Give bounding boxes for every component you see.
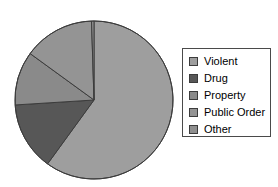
legend-label-violent: Violent	[204, 56, 237, 67]
pie-chart-screenshot: Violent Drug Property Public Order Other	[0, 0, 278, 187]
legend-swatch-drug	[189, 74, 198, 83]
legend-item-violent: Violent	[189, 53, 270, 69]
legend-label-other: Other	[204, 124, 232, 135]
legend-swatch-public-order	[189, 108, 198, 117]
pie-slice-group	[15, 21, 173, 179]
legend-label-public-order: Public Order	[204, 107, 265, 118]
legend-item-public-order: Public Order	[189, 104, 270, 120]
legend-item-other: Other	[189, 121, 270, 137]
legend-label-property: Property	[204, 90, 246, 101]
legend-item-drug: Drug	[189, 70, 270, 86]
chart-legend: Violent Drug Property Public Order Other	[182, 48, 271, 137]
pie-chart-svg	[0, 0, 190, 187]
legend-swatch-property	[189, 91, 198, 100]
legend-swatch-violent	[189, 57, 198, 66]
legend-item-property: Property	[189, 87, 270, 103]
legend-swatch-other	[189, 125, 198, 134]
pie-chart-area	[0, 0, 190, 187]
legend-label-drug: Drug	[204, 73, 228, 84]
